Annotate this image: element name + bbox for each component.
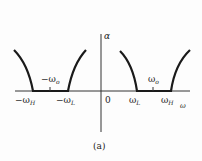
figure-caption: (a) [93,141,105,151]
label-neg-omega-L: −ωL [56,95,75,106]
label-omega-H: ωH [161,95,174,106]
label-omega-o: ωo [148,74,159,85]
attenuation-diagram: α −ωo −ωH −ωL 0 ωL ωo ωH ω (a) [0,0,202,161]
diagram-svg: α −ωo −ωH −ωL 0 ωL ωo ωH ω (a) [0,0,202,161]
left-attenuation-curve [14,50,86,91]
label-neg-omega-H: −ωH [15,95,36,106]
origin-label: 0 [105,95,111,105]
alpha-axis-label: α [104,31,110,41]
omega-axis-label: ω [180,102,186,110]
label-neg-omega-o: −ωo [41,74,60,85]
label-omega-L: ωL [129,95,140,106]
